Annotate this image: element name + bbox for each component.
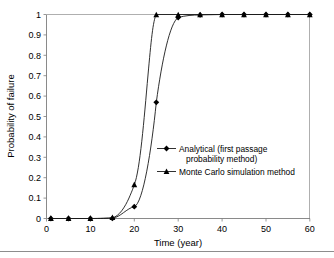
y-tick-label: 0.5 xyxy=(28,112,41,122)
data-point-marker xyxy=(153,99,159,105)
y-tick-label: 0.9 xyxy=(28,30,41,40)
monte-carlo-curve xyxy=(51,15,310,219)
bottom-divider xyxy=(0,251,334,252)
series-analytical xyxy=(48,12,313,222)
series-monte-carlo xyxy=(48,12,313,221)
x-tick-label: 20 xyxy=(129,224,139,234)
y-tick-label: 0.3 xyxy=(28,153,41,163)
y-tick-label: 1 xyxy=(36,10,41,20)
probability-of-failure-chart: 1 0.9 0.8 0.7 0.6 0.5 0.4 0.3 0.2 0.1 0 … xyxy=(0,0,334,258)
legend-label-analytical-line2: probability method) xyxy=(186,154,257,164)
legend-label-monte-carlo: Monte Carlo simulation method xyxy=(179,167,295,177)
y-tick-label: 0.7 xyxy=(28,71,41,81)
monte-carlo-markers xyxy=(48,12,313,221)
y-tick-label: 0.2 xyxy=(28,173,41,183)
y-tick-label: 0 xyxy=(36,214,41,224)
x-tick-label: 30 xyxy=(173,224,183,234)
diamond-marker-icon xyxy=(164,146,170,152)
legend-entry-analytical[interactable]: Analytical (first passage probability me… xyxy=(157,144,268,164)
y-tick-label: 0.8 xyxy=(28,51,41,61)
y-tick-label: 0.4 xyxy=(28,132,41,142)
data-point-marker xyxy=(131,182,137,188)
figure-container: 1 0.9 0.8 0.7 0.6 0.5 0.4 0.3 0.2 0.1 0 … xyxy=(0,0,334,258)
y-axis-tick-labels: 1 0.9 0.8 0.7 0.6 0.5 0.4 0.3 0.2 0.1 0 xyxy=(28,10,41,224)
x-tick-label: 10 xyxy=(85,224,95,234)
legend-label-analytical-line1: Analytical (first passage xyxy=(179,144,268,154)
plot-frame xyxy=(47,15,311,219)
x-axis-tick-labels: 0 10 20 30 40 50 60 xyxy=(44,224,315,234)
x-tick-label: 0 xyxy=(44,224,49,234)
legend-entry-monte-carlo[interactable]: Monte Carlo simulation method xyxy=(157,167,295,177)
x-axis-title: Time (year) xyxy=(154,237,202,248)
y-tick-label: 0.6 xyxy=(28,91,41,101)
x-tick-label: 40 xyxy=(217,224,227,234)
chart-legend: Analytical (first passage probability me… xyxy=(157,144,295,177)
x-tick-label: 60 xyxy=(305,224,315,234)
y-tick-label: 0.1 xyxy=(28,193,41,203)
y-axis-title: Probability of failure xyxy=(5,74,16,157)
x-tick-label: 50 xyxy=(261,224,271,234)
analytical-curve xyxy=(51,15,310,219)
analytical-markers xyxy=(48,12,313,222)
